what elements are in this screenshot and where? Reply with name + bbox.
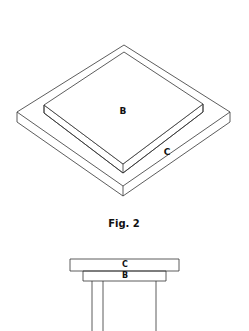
diagram-drawing (0, 0, 249, 331)
label-b-side: B (122, 272, 128, 280)
figure-caption: Fig. 2 (108, 219, 140, 229)
side-view (70, 259, 179, 331)
label-b-isometric: B (120, 107, 127, 116)
label-c-isometric: C (164, 148, 171, 157)
label-c-side: C (122, 261, 128, 269)
diagram-canvas: B C Fig. 2 C B (0, 0, 249, 331)
